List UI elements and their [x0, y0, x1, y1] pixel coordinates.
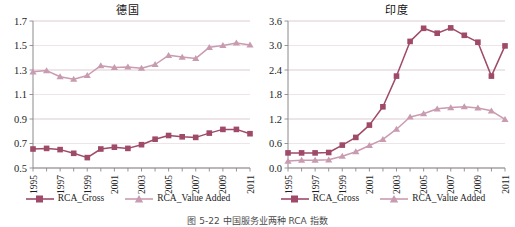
legend-label-rca-value-added: RCA_Value Added	[157, 194, 230, 204]
y-axis-tick-label: 1.7	[14, 16, 27, 27]
legend-label-rca-gross: RCA_Gross	[313, 194, 359, 204]
x-axis-tick-label: 1997	[311, 175, 321, 194]
legend-label-rca-gross: RCA_Gross	[58, 194, 104, 204]
chart-title-india: 印度	[255, 1, 515, 17]
y-axis-tick-label: 2.4	[269, 65, 283, 76]
x-axis-tick-label: 1999	[338, 175, 348, 194]
y-axis-tick-label: 1.5	[14, 40, 27, 51]
legend-entry-rca-value-added[interactable]: RCA_Value Added	[379, 194, 485, 204]
chart-panel-germany: 德国 0.50.70.91.11.31.51.71995199719992001…	[0, 0, 255, 215]
legend-germany: RCA_Gross RCA_Value Added	[0, 194, 255, 204]
legend-key-triangle-icon	[124, 194, 154, 204]
y-axis-tick-label: 1.1	[14, 89, 27, 100]
legend-label-rca-value-added: RCA_Value Added	[412, 194, 485, 204]
x-axis-tick-label: 2007	[191, 175, 201, 194]
x-axis-tick-label: 1995	[29, 175, 39, 194]
figure-caption: 图 5-22 中国服务业两种 RCA 指数	[0, 214, 515, 227]
x-axis-tick-label: 2009	[473, 175, 483, 194]
y-axis-tick-label: 1.3	[14, 65, 27, 76]
series-rca-value-added	[284, 103, 508, 163]
x-axis-tick-label: 2011	[501, 175, 510, 194]
legend-entry-rca-gross[interactable]: RCA_Gross	[25, 194, 104, 204]
plot-svg-india: 0.00.61.21.82.43.03.61995199719992001200…	[255, 16, 510, 201]
figure-root: 德国 0.50.70.91.11.31.51.71995199719992001…	[0, 0, 515, 227]
y-axis-tick-label: 3.6	[269, 16, 282, 27]
series-rca-gross	[285, 25, 508, 156]
plot-svg-germany: 0.50.70.91.11.31.51.71995199719992001200…	[0, 16, 255, 201]
plot-area-germany: 0.50.70.91.11.31.51.71995199719992001200…	[0, 16, 255, 168]
x-axis-tick-label: 2003	[137, 175, 147, 194]
chart-title-germany: 德国	[0, 1, 255, 17]
legend-key-square-icon	[280, 194, 310, 204]
legend-key-triangle-icon	[379, 194, 409, 204]
plot-area-india: 0.00.61.21.82.43.03.61995199719992001200…	[255, 16, 510, 168]
x-axis-tick-label: 2001	[110, 175, 120, 194]
legend-entry-rca-value-added[interactable]: RCA_Value Added	[124, 194, 230, 204]
y-axis-tick-label: 3.0	[269, 40, 282, 51]
y-axis-tick-label: 0.6	[269, 138, 282, 149]
legend-key-square-icon	[25, 194, 55, 204]
x-axis-tick-label: 2007	[446, 175, 456, 194]
y-axis-tick-label: 0.0	[269, 163, 282, 174]
y-axis-tick-label: 1.2	[269, 114, 282, 125]
chart-panel-india: 印度 0.00.61.21.82.43.03.61995199719992001…	[255, 0, 510, 215]
x-axis-tick-label: 2009	[218, 175, 228, 194]
series-rca-value-added	[29, 40, 253, 82]
legend-entry-rca-gross[interactable]: RCA_Gross	[280, 194, 359, 204]
x-axis-tick-label: 2005	[419, 175, 429, 194]
x-axis-tick-label: 1997	[56, 175, 66, 194]
x-axis-tick-label: 1995	[284, 175, 294, 194]
x-axis-tick-label: 1999	[83, 175, 93, 194]
y-axis-tick-label: 0.7	[14, 138, 27, 149]
x-axis-tick-label: 2001	[365, 175, 375, 194]
x-axis-tick-label: 2011	[246, 175, 255, 194]
x-axis-tick-label: 2005	[164, 175, 174, 194]
y-axis-tick-label: 0.9	[14, 114, 27, 125]
x-axis-tick-label: 2003	[392, 175, 402, 194]
y-axis-tick-label: 0.5	[14, 163, 27, 174]
y-axis-tick-label: 1.8	[269, 89, 282, 100]
legend-india: RCA_Gross RCA_Value Added	[255, 194, 510, 204]
